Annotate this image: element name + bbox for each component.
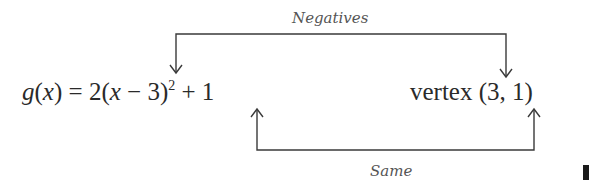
end-marker (583, 165, 589, 180)
plus-sign: + (182, 78, 196, 105)
function-name: g (22, 78, 35, 105)
minus-sign: − (127, 78, 141, 105)
paren-open: ( (35, 78, 43, 105)
k-value: 1 (202, 78, 215, 105)
paren-close: ) (54, 78, 62, 105)
negatives-label: Negatives (292, 9, 368, 27)
same-connector (251, 109, 540, 150)
equals-sign: = (69, 78, 83, 105)
coefficient: 2( (89, 78, 110, 105)
same-label: Same (370, 162, 412, 180)
vertex-text: vertex (3, 1) (410, 78, 533, 106)
vertex-coordinates: (3, 1) (479, 78, 533, 105)
h-value: 3) (147, 78, 168, 105)
variable-x: x (110, 78, 121, 105)
negatives-connector (170, 34, 512, 77)
function-arg: x (43, 78, 54, 105)
exponent: 2 (168, 78, 175, 93)
vertex-form-diagram: Negatives g(x) = 2(x − 3)2 + 1 vertex (3… (0, 0, 589, 196)
vertex-word: vertex (410, 78, 472, 105)
equation: g(x) = 2(x − 3)2 + 1 (22, 78, 214, 106)
